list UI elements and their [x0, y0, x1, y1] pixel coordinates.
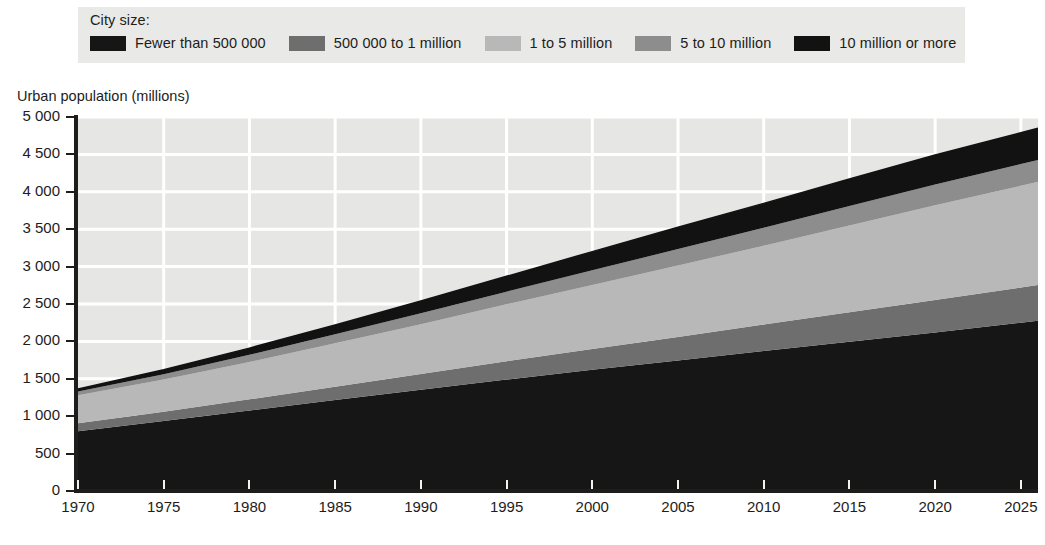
legend-label: 10 million or more: [839, 35, 956, 51]
legend-title: City size:: [90, 12, 150, 28]
legend-label: 5 to 10 million: [680, 35, 771, 51]
x-tick-label: 2015: [833, 498, 866, 515]
y-tick-label: 4 000: [0, 182, 60, 199]
legend-swatch: [794, 36, 830, 51]
x-tick: [163, 480, 165, 489]
x-tick: [934, 480, 936, 489]
legend-item: 1 to 5 million: [485, 35, 613, 51]
x-axis-line: [74, 489, 1038, 493]
y-tick-label: 0: [0, 481, 60, 498]
x-tick-label: 2005: [661, 498, 694, 515]
legend: City size: Fewer than 500 000500 000 to …: [78, 7, 965, 63]
plot-area: [78, 117, 1038, 491]
y-tick: [66, 228, 74, 230]
y-tick-label: 2 000: [0, 331, 60, 348]
legend-swatch: [289, 36, 325, 51]
x-tick-label: 2025: [1004, 498, 1037, 515]
area-series-group: [78, 128, 1038, 491]
x-tick: [1020, 480, 1022, 489]
x-tick: [248, 480, 250, 489]
legend-label: 500 000 to 1 million: [334, 35, 462, 51]
x-tick-label: 1995: [490, 498, 523, 515]
x-tick: [677, 480, 679, 489]
x-tick-label: 2020: [918, 498, 951, 515]
y-tick-label: 5 000: [0, 107, 60, 124]
x-tick-label: 1985: [318, 498, 351, 515]
x-tick-label: 1990: [404, 498, 437, 515]
y-tick: [66, 303, 74, 305]
x-tick: [591, 480, 593, 489]
y-tick: [66, 415, 74, 417]
y-tick-label: 4 500: [0, 144, 60, 161]
legend-item: Fewer than 500 000: [90, 35, 266, 51]
legend-label: 1 to 5 million: [530, 35, 613, 51]
x-tick-label: 1970: [61, 498, 94, 515]
legend-items: Fewer than 500 000500 000 to 1 million1 …: [90, 35, 956, 51]
legend-item: 5 to 10 million: [635, 35, 771, 51]
y-tick: [66, 490, 74, 492]
x-tick-label: 1975: [147, 498, 180, 515]
y-axis-title: Urban population (millions): [17, 88, 189, 104]
legend-swatch: [485, 36, 521, 51]
x-tick: [420, 480, 422, 489]
y-tick-label: 3 000: [0, 257, 60, 274]
stacked-area-chart: [78, 117, 1038, 491]
y-tick: [66, 153, 74, 155]
y-tick-label: 1 000: [0, 406, 60, 423]
x-tick-label: 1980: [233, 498, 266, 515]
x-tick: [334, 480, 336, 489]
x-tick-label: 2010: [747, 498, 780, 515]
x-tick-label: 2000: [576, 498, 609, 515]
legend-item: 10 million or more: [794, 35, 956, 51]
x-tick: [848, 480, 850, 489]
chart-figure: City size: Fewer than 500 000500 000 to …: [0, 0, 1045, 545]
y-tick: [66, 116, 74, 118]
y-tick: [66, 378, 74, 380]
y-axis-line: [74, 115, 78, 493]
legend-item: 500 000 to 1 million: [289, 35, 462, 51]
y-tick-label: 3 500: [0, 219, 60, 236]
y-tick-label: 500: [0, 444, 60, 461]
y-tick: [66, 191, 74, 193]
x-tick: [506, 480, 508, 489]
y-tick: [66, 340, 74, 342]
x-tick: [763, 480, 765, 489]
x-tick: [77, 480, 79, 489]
legend-swatch: [635, 36, 671, 51]
legend-swatch: [90, 36, 126, 51]
y-tick: [66, 266, 74, 268]
y-tick-label: 2 500: [0, 294, 60, 311]
y-tick: [66, 453, 74, 455]
y-tick-label: 1 500: [0, 369, 60, 386]
legend-label: Fewer than 500 000: [135, 35, 266, 51]
